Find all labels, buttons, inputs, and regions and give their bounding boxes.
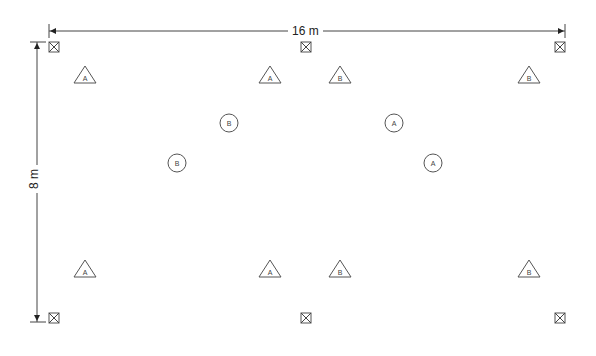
svg-text:B: B [527,75,532,82]
svg-text:B: B [338,75,343,82]
corner-markers [49,42,565,323]
svg-text:A: A [268,269,273,276]
circle-a-icon: A [385,114,403,132]
triangle-a-icon: A [74,260,96,277]
boxed-x-marker-icon [49,313,59,323]
svg-text:A: A [268,75,273,82]
boxed-x-marker-icon [555,313,565,323]
triangle-a-icon: A [74,66,96,83]
arrow-left-icon [50,28,56,34]
triangle-b-icon: B [518,66,540,83]
triangle-b-icon: B [329,260,351,277]
svg-text:B: B [227,120,232,127]
height-dimension-label: 8 m [27,165,41,193]
circle-a-icon: A [424,154,442,172]
svg-text:A: A [431,160,436,167]
triangle-symbols: AABBAABB [74,66,540,277]
boxed-x-marker-icon [301,42,311,52]
triangle-a-icon: A [259,260,281,277]
svg-text:A: A [83,269,88,276]
svg-text:B: B [338,269,343,276]
svg-text:A: A [83,75,88,82]
arrow-right-icon [558,28,564,34]
svg-text:B: B [175,160,180,167]
layout-diagram: AABBAABB BBAA [0,0,596,356]
arrow-down-icon [34,315,40,321]
width-dimension-label: 16 m [288,24,323,38]
triangle-b-icon: B [518,260,540,277]
arrow-up-icon [34,43,40,49]
circle-b-icon: B [168,154,186,172]
boxed-x-marker-icon [49,42,59,52]
triangle-a-icon: A [259,66,281,83]
circle-b-icon: B [220,114,238,132]
circle-symbols: BBAA [168,114,442,172]
triangle-b-icon: B [329,66,351,83]
svg-text:A: A [392,120,397,127]
boxed-x-marker-icon [301,313,311,323]
svg-text:B: B [527,269,532,276]
boxed-x-marker-icon [555,42,565,52]
